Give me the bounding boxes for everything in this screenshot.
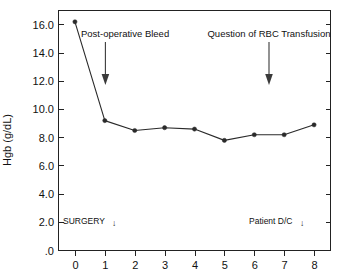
x-tick-label: 2 — [132, 259, 138, 271]
y-tick-label: 10.0 — [33, 103, 54, 115]
x-tick-label: 4 — [192, 259, 198, 271]
y-tick-label: 16.0 — [33, 19, 54, 31]
data-point — [222, 138, 226, 142]
chart-figure: .0 2.0 4.0 6.0 8.0 10.0 12.0 14.0 16.0 H… — [0, 0, 348, 280]
arrow-down-icon — [265, 74, 273, 85]
x-tick-label: 6 — [252, 259, 258, 271]
x-axis-tick-labels: 0 1 2 3 4 5 6 7 8 — [72, 259, 317, 271]
x-tick-label: 0 — [72, 259, 78, 271]
annotation-label: Post-operative Bleed — [81, 28, 169, 39]
annotation-label: Question of RBC Transfusion — [207, 28, 330, 39]
data-point — [282, 133, 286, 137]
x-tick-label: 1 — [102, 259, 108, 271]
annotation-question-rbc-transfusion: Question of RBC Transfusion — [207, 28, 330, 85]
event-label-patient-dc-text: Patient D/C — [249, 216, 292, 226]
data-point — [163, 126, 167, 130]
y-tick-label: 14.0 — [33, 47, 54, 59]
x-axis-ticks — [76, 251, 315, 256]
data-point — [252, 133, 256, 137]
y-tick-label: 6.0 — [39, 160, 54, 172]
hgb-series-line — [75, 22, 314, 141]
arrow-down-icon: ↓ — [300, 218, 304, 228]
arrow-down-icon: ↓ — [112, 218, 116, 228]
x-tick-label: 3 — [162, 259, 168, 271]
data-point — [133, 128, 137, 132]
x-tick-label: 7 — [282, 259, 288, 271]
y-tick-label: 4.0 — [39, 188, 54, 200]
y-axis-tick-labels: .0 2.0 4.0 6.0 8.0 10.0 12.0 14.0 16.0 — [33, 19, 54, 257]
data-point — [103, 119, 107, 123]
x-tick-label: 5 — [222, 259, 228, 271]
data-point — [312, 123, 316, 127]
data-point — [192, 127, 196, 131]
y-tick-label: 12.0 — [33, 75, 54, 87]
event-label-surgery-text: SURGERY — [63, 216, 105, 226]
arrow-down-icon — [102, 74, 110, 85]
y-axis-ticks-right — [326, 25, 331, 251]
event-label-surgery: SURGERY ↓ — [63, 216, 116, 228]
annotation-post-operative-bleed: Post-operative Bleed — [81, 28, 169, 85]
event-label-patient-dc: Patient D/C ↓ — [249, 216, 304, 228]
y-axis-title: Hgb (g/dL) — [1, 114, 13, 166]
hgb-line-chart: .0 2.0 4.0 6.0 8.0 10.0 12.0 14.0 16.0 H… — [0, 0, 348, 280]
y-tick-label: 8.0 — [39, 132, 54, 144]
y-tick-label: 2.0 — [39, 216, 54, 228]
data-point — [73, 20, 77, 24]
y-tick-label: .0 — [45, 245, 54, 257]
x-tick-label: 8 — [311, 259, 317, 271]
